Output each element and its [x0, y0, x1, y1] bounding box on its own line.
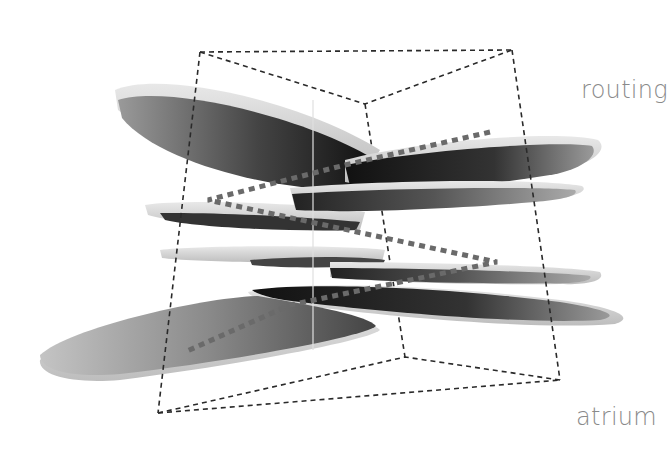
slab-1-upper-left [115, 84, 380, 189]
label-routing: routing [581, 76, 668, 104]
label-atrium: atrium [576, 403, 657, 431]
slab-6-center-right [330, 262, 601, 284]
diagram-svg [0, 0, 669, 450]
diagram-canvas [0, 0, 669, 450]
slab-4-mid-right [290, 181, 584, 211]
